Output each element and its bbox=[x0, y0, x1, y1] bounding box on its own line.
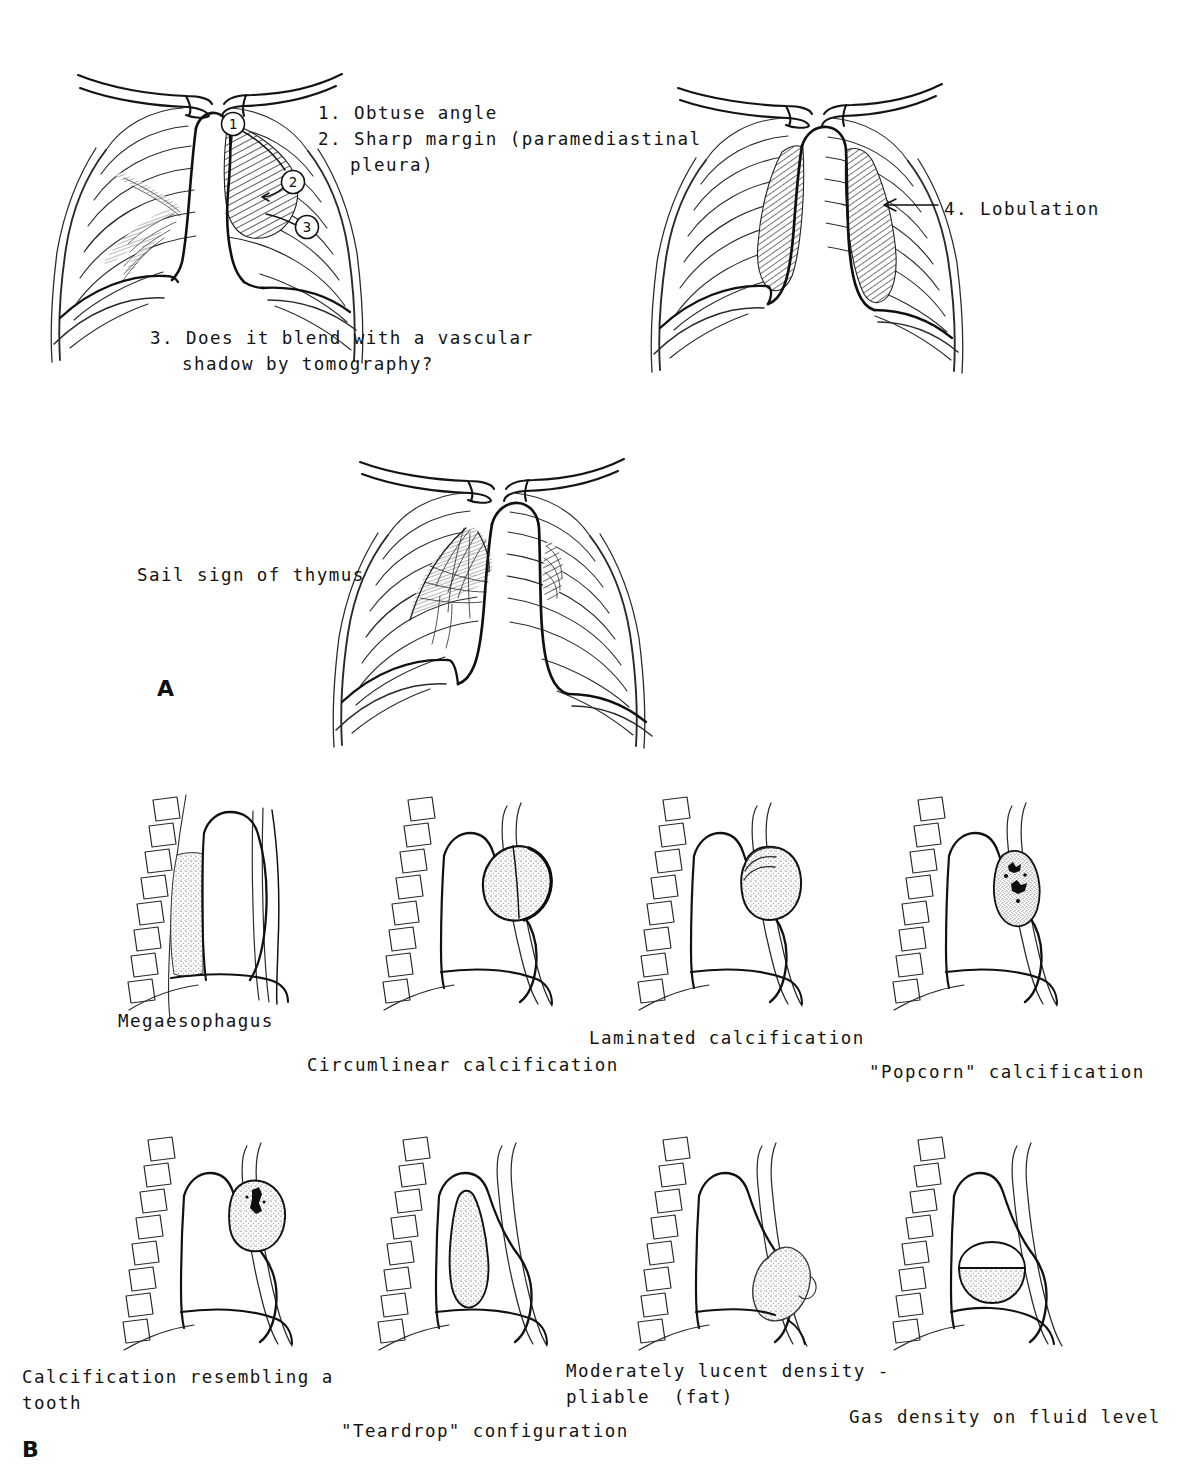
mass-crossing-line-2 bbox=[513, 846, 519, 918]
heart-silhouette-3 bbox=[694, 833, 787, 1002]
posterior-sulcus-5 bbox=[124, 1325, 194, 1350]
caption-tooth-calcification-cont: tooth bbox=[22, 1390, 334, 1416]
diaphragm-lateral-7 bbox=[696, 1309, 775, 1315]
diaphragm-lateral-8 bbox=[951, 1308, 1054, 1344]
mass-fat-pliable bbox=[753, 1247, 811, 1321]
posterior-heart-border-7 bbox=[696, 1196, 699, 1328]
marker-digit-3: 3 bbox=[303, 219, 311, 235]
mass-teardrop bbox=[450, 1191, 489, 1308]
lobulation-arrow bbox=[884, 199, 938, 211]
finding-4-label: 4. Lobulation bbox=[944, 196, 1100, 222]
frontal-chest-diagram-3-sail-sign bbox=[333, 459, 652, 748]
finding-1-label: 1. Obtuse angle bbox=[318, 100, 702, 126]
marker-leader-3 bbox=[266, 214, 296, 225]
lateral-view-laminated bbox=[638, 797, 802, 1010]
mass-gas-upper bbox=[959, 1242, 1025, 1268]
thymic-sail-edge bbox=[410, 528, 489, 620]
posterior-sulcus-2 bbox=[384, 985, 454, 1010]
caption-circumlinear-calcification: Circumlinear calcification bbox=[307, 1052, 619, 1078]
vascular-detail-left bbox=[122, 178, 180, 282]
calcific-rim-2 bbox=[524, 848, 551, 920]
finding-2-label: 2. Sharp margin (paramediastinal bbox=[318, 126, 702, 152]
tooth-calcium-shape bbox=[245, 1187, 265, 1214]
diaphragm-lateral-7b bbox=[788, 1320, 805, 1344]
vertebral-bodies-2 bbox=[383, 797, 435, 1003]
mass-popcorn bbox=[994, 851, 1040, 926]
diaphragm-lateral-5 bbox=[181, 1310, 292, 1344]
caption-tooth-block: Calcification resembling a tooth bbox=[22, 1364, 334, 1416]
sternum-8 bbox=[1012, 1143, 1062, 1346]
posterior-sulcus-8 bbox=[894, 1325, 964, 1350]
mediastinal-mass-hatched bbox=[224, 122, 298, 238]
caption-fat-block: Moderately lucent density - pliable (fat… bbox=[566, 1358, 890, 1410]
mass-laminated bbox=[741, 847, 801, 920]
mediastinal-silhouette-2 bbox=[768, 127, 874, 310]
posterior-sulcus-1 bbox=[129, 985, 198, 1010]
marker-digit-2: 2 bbox=[289, 174, 297, 190]
diaphragm-2 bbox=[660, 286, 952, 338]
thymic-sail-strokes bbox=[420, 528, 488, 648]
sternum-5 bbox=[242, 1143, 292, 1346]
mediastinal-silhouette-3 bbox=[458, 503, 568, 694]
panel-letter-a: A bbox=[157, 676, 174, 701]
diaphragm-3 bbox=[342, 660, 646, 722]
caption-fat-density: Moderately lucent density - bbox=[566, 1358, 890, 1384]
diaphragm-lateral-4 bbox=[946, 970, 1057, 1004]
caption-laminated-calcification: Laminated calcification bbox=[589, 1025, 865, 1051]
rib-cage-left-3 bbox=[333, 493, 478, 747]
caption-fat-density-cont: pliable (fat) bbox=[566, 1384, 890, 1410]
vertebral-bodies-1 bbox=[128, 797, 180, 1003]
marker-circle-1 bbox=[222, 113, 245, 136]
diaphragm-lateral-3 bbox=[691, 970, 802, 1004]
mass-circumlinear bbox=[483, 846, 551, 920]
posterior-heart-border-5 bbox=[181, 1196, 184, 1328]
vertebral-bodies-8 bbox=[893, 1137, 945, 1343]
sternum-4 bbox=[1007, 803, 1057, 1006]
caption-megaesophagus: Megaesophagus bbox=[118, 1008, 274, 1034]
clavicle-left bbox=[78, 75, 212, 118]
sail-sign-label: Sail sign of thymus bbox=[137, 562, 365, 588]
vascular-markings-left bbox=[108, 176, 176, 270]
caption-teardrop-configuration: "Teardrop" configuration bbox=[341, 1418, 629, 1444]
marker-digit-1: 1 bbox=[229, 116, 237, 132]
finding-3-label-cont: shadow by tomography? bbox=[182, 351, 566, 377]
lateral-view-fat-density bbox=[638, 1137, 816, 1350]
sternum-1 bbox=[252, 808, 269, 1002]
popcorn-calcium-blobs bbox=[1004, 862, 1027, 903]
heart-silhouette-4 bbox=[949, 833, 1042, 1002]
diaphragm-lower-outline-2 bbox=[654, 308, 958, 354]
lobulated-mass-left bbox=[757, 146, 803, 291]
posterior-heart-border-4 bbox=[946, 856, 949, 988]
posterior-chest-wall-1 bbox=[169, 795, 187, 1018]
clavicle-right-3 bbox=[504, 459, 624, 501]
thymic-shading-right bbox=[543, 540, 563, 601]
mediastinal-silhouette bbox=[172, 113, 244, 282]
posterior-heart-border-6 bbox=[436, 1196, 439, 1328]
finding-3-block: 3. Does it blend with a vascular shadow … bbox=[150, 325, 534, 377]
lateral-view-popcorn bbox=[893, 797, 1057, 1010]
frontal-chest-diagram-1 bbox=[51, 74, 363, 363]
heart-silhouette-5 bbox=[184, 1173, 277, 1342]
mass-fluid-lower bbox=[959, 1268, 1025, 1303]
thymic-sail-shading bbox=[410, 527, 492, 616]
rib-cage-left bbox=[51, 108, 196, 362]
marker-circle-3 bbox=[296, 216, 319, 239]
heart-silhouette-7 bbox=[699, 1173, 792, 1342]
vertebral-bodies-4 bbox=[893, 797, 945, 1003]
panel-letter-b: B bbox=[22, 1437, 39, 1462]
rib-cage-right-2 bbox=[825, 118, 963, 373]
mass-tooth bbox=[229, 1180, 285, 1251]
diaphragm-lateral-1 bbox=[171, 975, 288, 1003]
diaphragm-lower-outline-3 bbox=[336, 684, 652, 736]
rib-cage-right-3 bbox=[507, 493, 645, 748]
lateral-view-gas-fluid bbox=[893, 1137, 1062, 1350]
lateral-view-teardrop bbox=[378, 1137, 547, 1350]
finding-1-2-block: 1. Obtuse angle 2. Sharp margin (paramed… bbox=[318, 100, 702, 178]
figure-root: 1 2 3 1. Obtuse angle 2. Sharp margin (p… bbox=[0, 0, 1185, 1476]
vertebral-bodies-6 bbox=[378, 1137, 430, 1343]
marker-arrow-2 bbox=[262, 188, 283, 201]
vertebral-bodies-7 bbox=[638, 1137, 690, 1343]
caption-gas-fluid-level: Gas density on fluid level bbox=[849, 1404, 1161, 1430]
lateral-view-circumlinear bbox=[383, 797, 552, 1010]
posterior-heart-border-3 bbox=[691, 856, 694, 988]
